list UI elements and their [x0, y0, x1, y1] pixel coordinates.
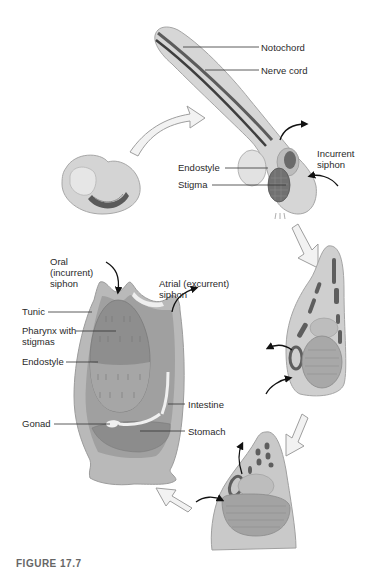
cycle-arrow-3-icon	[286, 414, 308, 456]
figure-caption: FIGURE 17.7	[16, 558, 82, 568]
settling-larva-illustration	[266, 246, 346, 396]
label-gonad: Gonad	[22, 418, 51, 429]
label-atrial-siphon: Atrial (excurrent) siphon	[159, 278, 229, 300]
metamorphosis-illustration	[196, 432, 296, 550]
label-stomach: Stomach	[188, 426, 226, 437]
label-nerve-cord: Nerve cord	[261, 65, 307, 76]
label-intestine: Intestine	[188, 399, 224, 410]
label-notochord: Notochord	[261, 42, 305, 53]
label-oral-siphon: Oral (incurrent) siphon	[50, 256, 93, 289]
label-stigma: Stigma	[178, 179, 208, 190]
label-endostyle-adult: Endostyle	[22, 356, 64, 367]
cycle-arrow-2-icon	[292, 224, 318, 268]
tadpole-larva-illustration	[155, 27, 338, 219]
label-endostyle-larva: Endostyle	[178, 162, 220, 173]
label-pharynx: Pharynx with stigmas	[22, 325, 76, 347]
cycle-arrow-1-icon	[130, 106, 205, 156]
embryo-illustration	[62, 155, 140, 214]
label-tunic: Tunic	[22, 306, 45, 317]
label-incurrent-siphon: Incurrent siphon	[317, 148, 355, 170]
cycle-arrow-4-icon	[156, 488, 192, 512]
